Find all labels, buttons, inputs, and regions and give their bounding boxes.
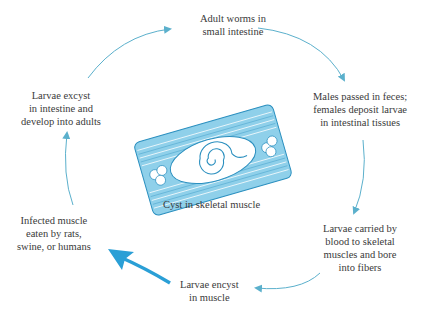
stage-larvae-excyst: Larvae excyst in intestine and develop i… [21, 89, 101, 128]
stage-text: muscles and bore [323, 248, 397, 261]
stage-larvae-encyst: Larvae encyst in muscle [180, 278, 239, 304]
arrow-carried-to-encyst [256, 273, 320, 289]
stage-text: Larvae carried by [323, 222, 397, 235]
stage-text: Larvae excyst [21, 89, 101, 102]
stage-text: Adult worms in [200, 12, 266, 25]
stage-text: small intestine [200, 25, 266, 38]
arrow-males-to-carried [354, 140, 364, 213]
stage-text: into fibers [323, 261, 397, 274]
caption-text: Cyst in skeletal muscle [163, 198, 260, 211]
stage-text: eaten by rats, [17, 227, 91, 240]
stage-text: in intestine and [21, 102, 101, 115]
stage-larvae-carried: Larvae carried by blood to skeletal musc… [323, 222, 397, 274]
arrow-infected-to-excyst [65, 133, 73, 205]
stage-text: Males passed in feces; [313, 90, 407, 103]
stage-text: develop into adults [21, 115, 101, 128]
stage-males-passed: Males passed in feces; females deposit l… [313, 90, 407, 129]
stage-text: females deposit larvae [313, 103, 407, 116]
cyst-caption: Cyst in skeletal muscle [163, 198, 260, 211]
arrow-excyst-to-adult [88, 29, 170, 78]
stage-adult-worms: Adult worms in small intestine [200, 12, 266, 38]
bold-arrowhead [108, 249, 134, 270]
stage-text: Larvae encyst [180, 278, 239, 291]
stage-text: in muscle [180, 291, 239, 304]
stage-text: blood to skeletal [323, 235, 397, 248]
bold-arrow-encyst-to-infected [120, 257, 170, 283]
stage-infected-muscle: Infected muscle eaten by rats, swine, or… [17, 214, 91, 253]
stage-text: swine, or humans [17, 240, 91, 253]
arrow-adult-to-males [258, 28, 344, 80]
stage-text: in intestinal tissues [313, 116, 407, 129]
stage-text: Infected muscle [17, 214, 91, 227]
